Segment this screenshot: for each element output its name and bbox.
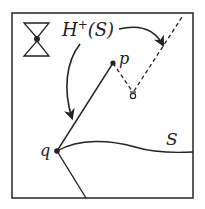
point-p-label: p bbox=[119, 49, 129, 68]
horizon-generator bbox=[57, 63, 113, 151]
horizon-arrow-left bbox=[67, 44, 80, 118]
surface-s-label: S bbox=[166, 129, 178, 149]
horizon-label: H+(S) bbox=[61, 18, 114, 40]
causal-diagram: H+(S) p q S bbox=[0, 0, 205, 209]
point-q-label: q bbox=[40, 141, 50, 160]
small-light-cone-icon bbox=[130, 92, 136, 99]
point-p bbox=[110, 60, 115, 65]
past-generator bbox=[57, 151, 86, 198]
light-cone-icon bbox=[24, 23, 49, 56]
horizon-arrow-right bbox=[119, 27, 163, 45]
